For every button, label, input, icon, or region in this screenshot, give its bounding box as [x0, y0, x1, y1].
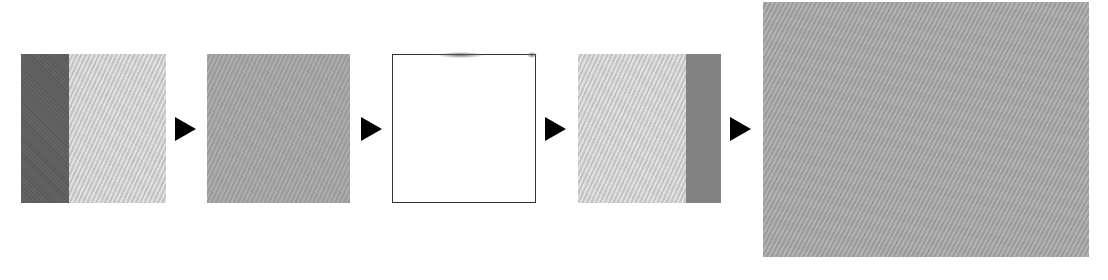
arrow-right-icon: [175, 117, 196, 141]
step-1-dark-strip: [21, 54, 69, 203]
process-diagram: [0, 0, 1108, 280]
arrow-right-icon: [730, 117, 751, 141]
step-2-panel: [207, 54, 350, 203]
step-4-panel: [578, 54, 721, 203]
step-4-gray-strip: [686, 54, 721, 203]
step-5-panel: [763, 2, 1089, 257]
step-3-top-mark: [438, 52, 483, 58]
step-3-panel: [392, 54, 536, 203]
arrow-right-icon: [545, 117, 566, 141]
arrow-right-icon: [361, 117, 382, 141]
step-1-panel: [21, 54, 166, 203]
step-3-corner-mark: [527, 52, 537, 58]
